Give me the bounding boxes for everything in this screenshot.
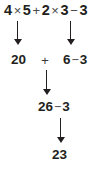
operand-3-line3: 3 [62, 99, 70, 114]
result-6: 6 [63, 52, 71, 67]
order-of-operations-diagram: 4×5+2×3−3 20 + 6−3 26−3 23 [0, 0, 112, 173]
final-answer-23: 23 [52, 148, 67, 162]
arrow-head [57, 137, 65, 143]
plus-operator: + [31, 3, 41, 18]
arrow-head [43, 89, 51, 95]
arrow-head [14, 39, 22, 45]
expression-line-original: 4×5+2×3−3 [4, 3, 88, 18]
result-6-minus-3: 6−3 [63, 53, 87, 67]
arrow-shaft [46, 70, 48, 90]
operand-3b: 3 [79, 2, 87, 18]
multiply-operator-2: × [50, 3, 60, 18]
minus-operator-line3: − [53, 100, 62, 114]
result-20: 20 [11, 53, 26, 67]
arrow-shaft [60, 118, 62, 138]
operand-2: 2 [42, 2, 50, 18]
arrow-shaft [17, 21, 19, 40]
minus-operator: − [69, 3, 79, 18]
plus-operator-line2: + [41, 54, 49, 68]
arrow-shaft [70, 21, 72, 40]
arrow-head [67, 39, 75, 45]
operand-3-line2: 3 [80, 52, 88, 67]
result-26-minus-3: 26−3 [38, 100, 70, 114]
multiply-operator-1: × [12, 3, 22, 18]
minus-operator-line2: − [71, 53, 80, 67]
operand-3a: 3 [61, 2, 69, 18]
result-26: 26 [38, 99, 53, 114]
